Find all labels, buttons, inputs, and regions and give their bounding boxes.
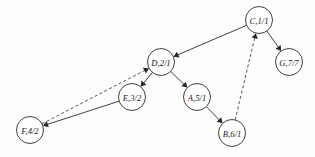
arrowhead-D-E: [141, 81, 147, 87]
edge-line-D-A: [171, 71, 186, 85]
arrowhead-C-G: [276, 45, 282, 51]
edge-line-C-G: [267, 31, 280, 49]
arrowhead-B-C: [252, 33, 258, 39]
edge-B-C: [235, 33, 258, 120]
edge-D-A: [171, 71, 188, 87]
edge-line-E-F: [46, 101, 120, 125]
edge-D-E: [141, 72, 153, 86]
node-label-G: G,7/7: [279, 58, 299, 68]
node-C[interactable]: C,1/1: [246, 7, 273, 34]
nodes-layer: C,1/1G,7/7D,2/1E,3/2A,5/1B,6/1F,4/2: [17, 7, 303, 147]
node-label-D: D,2/1: [150, 58, 170, 68]
graph-canvas: C,1/1G,7/7D,2/1E,3/2A,5/1B,6/1F,4/2: [0, 0, 315, 157]
node-G[interactable]: G,7/7: [276, 49, 303, 76]
edge-C-G: [267, 31, 281, 51]
node-label-C: C,1/1: [250, 16, 269, 26]
node-label-B: B,6/1: [223, 129, 241, 139]
edge-A-B: [206, 107, 222, 124]
node-label-E: E,3/2: [122, 93, 142, 103]
edges-layer: [42, 25, 281, 127]
node-A[interactable]: A,5/1: [184, 84, 211, 111]
edge-C-D: [173, 25, 246, 57]
edge-E-F: [43, 101, 119, 127]
node-D[interactable]: D,2/1: [148, 49, 175, 76]
edge-line-A-B: [206, 107, 220, 122]
edge-line-B-C: [235, 36, 255, 120]
node-label-F: F,4/2: [20, 126, 39, 136]
graph-svg: C,1/1G,7/7D,2/1E,3/2A,5/1B,6/1F,4/2: [0, 0, 315, 157]
node-E[interactable]: E,3/2: [119, 84, 146, 111]
edge-line-C-D: [176, 25, 247, 55]
node-F[interactable]: F,4/2: [17, 117, 44, 144]
node-label-A: A,5/1: [187, 93, 206, 103]
node-B[interactable]: B,6/1: [219, 120, 246, 147]
